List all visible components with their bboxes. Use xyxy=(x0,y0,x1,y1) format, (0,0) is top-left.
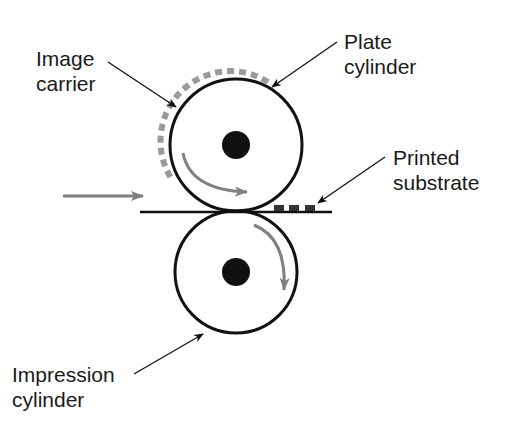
image-carrier-label-line2: carrier xyxy=(36,71,96,96)
impression-cylinder-label: Impression cylinder xyxy=(12,362,115,412)
printed-substrate-label: Printed substrate xyxy=(393,145,479,195)
image-carrier-leader-arrow xyxy=(108,62,176,107)
plate-cylinder-axle xyxy=(222,131,250,159)
impression-cylinder-label-line2: cylinder xyxy=(12,387,115,412)
image-carrier-label: Image carrier xyxy=(36,46,96,96)
impression-rotation-arrow xyxy=(254,225,284,290)
image-carrier-arc xyxy=(160,71,268,178)
printed-substrate-leader-arrow xyxy=(318,157,385,203)
plate-cylinder-label: Plate cylinder xyxy=(344,29,416,79)
impression-cylinder-axle xyxy=(222,258,250,286)
printed-substrate-label-line1: Printed xyxy=(393,145,479,170)
impression-cylinder-label-line1: Impression xyxy=(12,362,115,387)
image-carrier-label-line1: Image xyxy=(36,46,96,71)
impression-cylinder xyxy=(175,211,297,333)
printed-ink-blocks xyxy=(274,205,315,211)
impression-cylinder-leader-arrow xyxy=(134,334,203,374)
plate-cylinder-leader-arrow xyxy=(272,42,337,87)
plate-cylinder-label-line1: Plate xyxy=(344,29,416,54)
printed-substrate-label-line2: substrate xyxy=(393,170,479,195)
plate-cylinder-label-line2: cylinder xyxy=(344,54,416,79)
